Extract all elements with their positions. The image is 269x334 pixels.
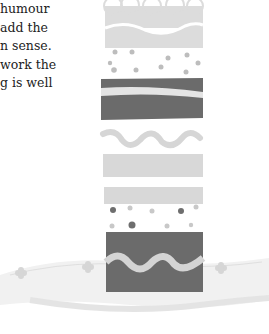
cake-bottom-layer — [106, 232, 203, 292]
cake-dark-layer — [101, 78, 203, 120]
cake-light-layer — [104, 187, 203, 204]
cake-top — [104, 0, 203, 48]
cake-light-layer — [103, 154, 203, 177]
cake-illustration — [0, 0, 269, 334]
sprinkles — [108, 50, 201, 75]
cake-wave — [103, 132, 200, 145]
sprinkles — [110, 205, 199, 229]
